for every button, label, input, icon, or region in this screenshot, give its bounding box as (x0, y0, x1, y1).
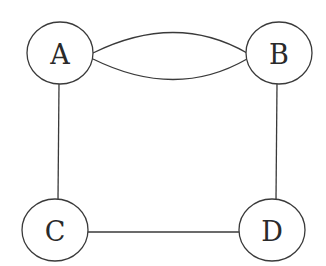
edge-b-d (276, 84, 277, 199)
node-b-label: B (269, 39, 289, 70)
edge-a-b-lower (93, 59, 247, 80)
node-d-label: D (261, 216, 283, 247)
node-a-label: A (49, 39, 70, 70)
edge-a-b-upper (93, 33, 247, 54)
node-c-label: C (45, 216, 66, 247)
node-d: D (239, 199, 305, 261)
node-c: C (22, 199, 88, 261)
graph-diagram: A B C D (0, 0, 326, 266)
node-b: B (246, 22, 312, 84)
edge-a-c (58, 84, 59, 199)
node-a: A (27, 22, 93, 84)
